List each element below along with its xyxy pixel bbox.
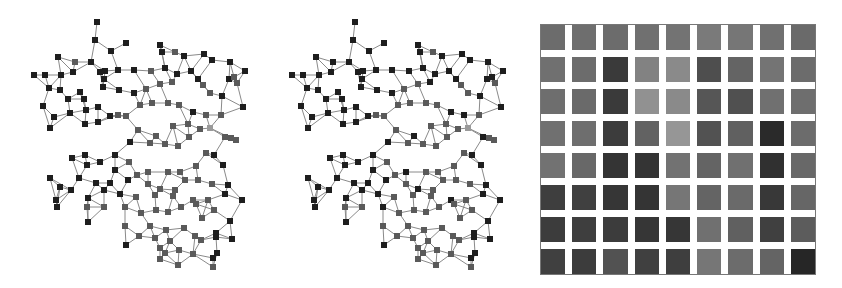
network-node-square	[152, 192, 158, 198]
network-node-square	[165, 209, 171, 215]
network-node-square	[82, 121, 88, 127]
network-node-square	[54, 204, 60, 210]
network-node-square	[370, 152, 376, 158]
heatmap-cell	[603, 249, 627, 274]
network-node-square	[153, 207, 159, 213]
heatmap-cell	[541, 217, 565, 242]
network-node-square	[136, 233, 142, 239]
network-node-square	[360, 68, 366, 74]
network-node-square	[46, 85, 52, 91]
heatmap-cell	[572, 89, 596, 114]
heatmap-cell	[666, 185, 690, 210]
heatmap-cell	[760, 89, 784, 114]
network-node-square	[40, 103, 46, 109]
network-node-square	[207, 125, 213, 131]
network-node-square	[410, 192, 416, 198]
network-node-square	[145, 169, 151, 175]
network-node-square	[391, 194, 397, 200]
network-node-square	[192, 233, 198, 239]
network-node-square	[395, 102, 401, 108]
heatmap-cell	[760, 25, 784, 50]
network-node-square	[328, 69, 334, 75]
network-node-square	[401, 86, 407, 92]
network-node-square	[200, 82, 206, 88]
network-node-square	[340, 152, 346, 158]
network-node-square	[394, 233, 400, 239]
network-node-square	[465, 125, 471, 131]
network-node-square	[309, 114, 315, 120]
heatmap-cell	[728, 217, 752, 242]
heatmap-cell	[541, 25, 565, 50]
network-node-square	[51, 114, 57, 120]
network-node-square	[423, 100, 429, 106]
network-node-square	[163, 227, 169, 233]
network-node-square	[172, 49, 178, 55]
network-edge	[222, 96, 243, 107]
network-node-square	[491, 137, 497, 143]
heatmap-cell	[791, 153, 815, 178]
heatmap-cell	[728, 121, 752, 146]
network-node-square	[188, 68, 194, 74]
network-node-square	[165, 169, 171, 175]
network-node-square	[373, 67, 379, 73]
network-node-square	[102, 68, 108, 74]
network-node-square	[42, 72, 48, 78]
heatmap-cell	[728, 185, 752, 210]
network-node-square	[135, 127, 141, 133]
network-node-square	[433, 262, 439, 268]
heatmap-cell	[697, 249, 721, 274]
heatmap-cell	[572, 185, 596, 210]
network-node-square	[176, 102, 182, 108]
network-node-square	[469, 152, 475, 158]
network-node-square	[222, 191, 228, 197]
network-node-square	[500, 68, 506, 74]
heatmap-cell	[760, 153, 784, 178]
network-node-square	[72, 59, 78, 65]
network-node-square	[340, 121, 346, 127]
network-node-square	[133, 194, 139, 200]
heatmap-cell	[572, 57, 596, 82]
heatmap-cell	[697, 89, 721, 114]
network-node-square	[497, 197, 503, 203]
network-node-square	[478, 162, 484, 168]
network-node-square	[430, 187, 436, 193]
network-node-square	[467, 181, 473, 187]
network-graph-left	[0, 0, 270, 288]
network-node-square	[480, 134, 486, 140]
network-node-square	[81, 96, 87, 102]
network-node-square	[186, 134, 192, 140]
heatmap-cell	[791, 121, 815, 146]
network-node-square	[439, 225, 445, 231]
network-node-square	[455, 126, 461, 132]
heatmap-cell	[760, 121, 784, 146]
network-node-square	[175, 262, 181, 268]
network-node-square	[205, 197, 211, 203]
network-node-square	[231, 74, 237, 80]
network-node-square	[219, 93, 225, 99]
network-nodes	[289, 19, 506, 270]
network-node-square	[101, 204, 107, 210]
network-node-square	[370, 167, 376, 173]
network-node-square	[365, 180, 371, 186]
heatmap-cell	[697, 121, 721, 146]
network-node-square	[153, 133, 159, 139]
network-node-square	[181, 53, 187, 59]
heatmap-cell	[635, 57, 659, 82]
network-node-square	[193, 201, 199, 207]
network-node-square	[358, 84, 364, 90]
network-node-square	[403, 181, 409, 187]
network-node-square	[227, 218, 233, 224]
network-node-square	[461, 150, 467, 156]
network-node-square	[359, 204, 365, 210]
network-node-square	[458, 82, 464, 88]
network-node-square	[57, 87, 63, 93]
network-node-square	[175, 143, 181, 149]
network-node-square	[339, 96, 345, 102]
heatmap-cell	[541, 249, 565, 274]
network-node-square	[485, 218, 491, 224]
heatmap-cell	[635, 249, 659, 274]
network-node-square	[123, 113, 129, 119]
network-node-square	[177, 169, 183, 175]
network-node-square	[467, 57, 473, 63]
heatmap-cell	[697, 57, 721, 82]
